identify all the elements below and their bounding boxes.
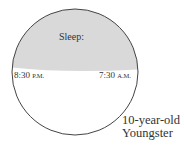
diagram-caption: 10-year-old Youngster (122, 114, 180, 140)
caption-line-2: Youngster (122, 127, 180, 140)
wake-time-label: 7:30 A.M. (99, 70, 131, 80)
bedtime-label: 8:30 P.M. (14, 70, 44, 80)
sleep-segment (0, 0, 184, 71)
sleep-label: Sleep: (59, 31, 84, 42)
